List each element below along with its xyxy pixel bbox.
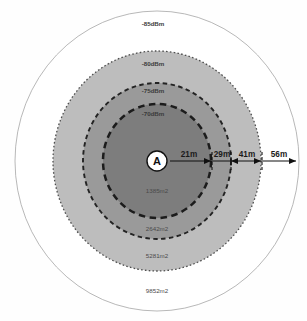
ring-area-85dbm: 9852m2 (146, 287, 169, 294)
coverage-rings-svg: A -85dBm -80dBm -75dBm -70dBm 1385m2 264… (0, 0, 307, 321)
access-point-label: A (153, 155, 161, 167)
ring-area-80dbm: 5281m2 (146, 252, 169, 259)
ring-area-75dbm: 2642m2 (146, 225, 169, 232)
ring-area-70dbm: 1385m2 (146, 187, 169, 194)
distance-label-21m: 21m (181, 150, 197, 159)
ring-label-85dbm: -85dBm (142, 20, 165, 27)
distance-label-41m: 41m (239, 150, 255, 159)
ring-label-75dbm: -75dBm (142, 87, 165, 94)
distance-label-29m: 29m (214, 150, 230, 159)
ring-label-80dbm: -80dBm (142, 60, 165, 67)
access-point-marker[interactable]: A (147, 151, 167, 171)
distance-label-56m: 56m (271, 150, 287, 159)
coverage-diagram: A -85dBm -80dBm -75dBm -70dBm 1385m2 264… (0, 0, 307, 321)
ring-label-70dbm: -70dBm (142, 110, 165, 117)
